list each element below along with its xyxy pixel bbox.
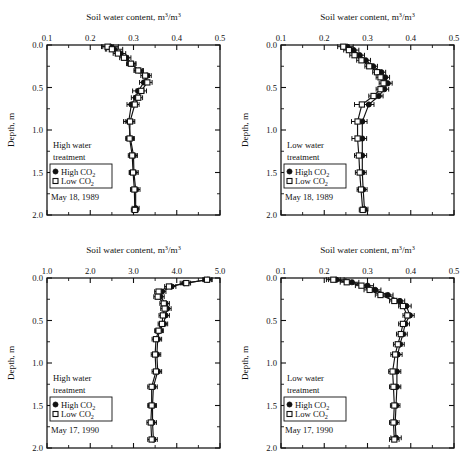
x-tick-label: 3.0 [128, 266, 139, 276]
data-point-low-co2 [352, 53, 357, 58]
series-line [151, 280, 207, 440]
treatment-label-line1: High water [53, 373, 92, 383]
chart-panel-top-right: Soil water content, m3/m3Depth, m0.10.20… [234, 0, 468, 232]
data-point-low-co2 [355, 119, 360, 124]
data-point-low-co2 [204, 277, 209, 282]
treatment-label-line2: treatment [287, 152, 320, 162]
y-tick-label: 0.5 [32, 316, 43, 326]
legend-label-low-co2: Low CO2 [61, 176, 94, 188]
data-point-low-co2 [139, 88, 144, 93]
data-point-low-co2 [355, 136, 360, 141]
data-point-low-co2 [148, 420, 153, 425]
treatment-label-line2: treatment [287, 385, 320, 395]
data-point-low-co2 [153, 337, 158, 342]
y-tick-label: 1.5 [32, 168, 43, 178]
x-tick-label: 2.0 [85, 266, 96, 276]
data-point-low-co2 [391, 384, 396, 389]
legend-label-low-co2: Low CO2 [295, 409, 328, 421]
x-tick-label: 1.0 [42, 266, 53, 276]
date-label: May 17, 1990 [51, 425, 99, 435]
data-point-low-co2 [357, 170, 362, 175]
data-point-low-co2 [127, 136, 132, 141]
legend: Low watertreatmentHigh CO2Low CO2May 18,… [284, 140, 346, 202]
data-point-low-co2 [405, 313, 410, 318]
x-tick-label: 0.1 [42, 33, 53, 43]
data-point-low-co2 [359, 102, 364, 107]
x-tick-label: 0.5 [215, 33, 226, 43]
legend-label-low-co2: Low CO2 [61, 409, 94, 421]
y-tick-label: 1.5 [266, 401, 277, 411]
x-axis-title: Soil water content, m3/m3 [320, 11, 414, 22]
y-axis-title: Depth, m [6, 346, 16, 380]
data-point-low-co2 [381, 81, 386, 86]
y-tick-label: 1.0 [32, 125, 43, 135]
data-point-low-co2 [378, 75, 383, 80]
y-axis-title: Depth, m [240, 113, 250, 147]
data-point-low-co2 [400, 303, 405, 308]
x-tick-label: 0.3 [362, 266, 373, 276]
x-tick-label: 4.0 [171, 266, 182, 276]
data-point-low-co2 [341, 44, 346, 49]
y-tick-label: 1.0 [266, 358, 277, 368]
data-point-low-co2 [359, 58, 364, 63]
legend-marker-low-co2 [53, 179, 58, 184]
series-high-co2 [149, 277, 213, 442]
data-point-low-co2 [360, 207, 365, 212]
y-tick-label: 0.5 [32, 83, 43, 93]
treatment-label-line2: treatment [53, 385, 86, 395]
data-point-low-co2 [374, 70, 379, 75]
y-tick-label: 0.5 [266, 316, 277, 326]
x-axis-title: Soil water content, m3/m3 [320, 244, 414, 255]
y-axis-title: Depth, m [6, 113, 16, 147]
data-point-low-co2 [132, 187, 137, 192]
data-point-low-co2 [149, 437, 154, 442]
legend: High watertreatmentHigh CO2Low CO2May 18… [50, 140, 112, 202]
data-point-low-co2 [153, 352, 158, 357]
legend-marker-high-co2 [287, 402, 292, 407]
data-point-low-co2 [136, 95, 141, 100]
x-tick-label: 0.4 [405, 266, 416, 276]
data-point-low-co2 [331, 277, 336, 282]
data-point-low-co2 [359, 283, 364, 288]
y-tick-label: 1.0 [32, 358, 43, 368]
data-point-low-co2 [166, 284, 171, 289]
y-tick-label: 0.5 [266, 83, 277, 93]
data-point-low-co2 [115, 51, 120, 56]
date-label: May 18, 1989 [285, 192, 333, 202]
y-tick-label: 1.0 [266, 125, 277, 135]
legend-marker-high-co2 [287, 169, 292, 174]
data-point-low-co2 [121, 55, 126, 60]
x-tick-label: 0.5 [449, 266, 460, 276]
y-tick-label: 2.0 [32, 210, 43, 220]
y-tick-label: 0.0 [32, 40, 43, 50]
data-point-low-co2 [356, 153, 361, 158]
legend: High watertreatmentHigh CO2Low CO2May 17… [50, 373, 112, 435]
data-point-low-co2 [398, 332, 403, 337]
legend-label-low-co2: Low CO2 [295, 176, 328, 188]
data-point-low-co2 [392, 298, 397, 303]
x-tick-label: 0.1 [276, 266, 287, 276]
x-tick-label: 0.5 [449, 33, 460, 43]
x-tick-label: 0.4 [171, 33, 182, 43]
y-tick-label: 0.0 [266, 273, 277, 283]
treatment-label-line2: treatment [53, 152, 86, 162]
data-point-low-co2 [109, 47, 114, 52]
x-tick-label: 0.2 [319, 266, 330, 276]
data-point-low-co2 [371, 93, 376, 98]
legend-marker-low-co2 [287, 412, 292, 417]
x-tick-label: 0.4 [405, 33, 416, 43]
data-point-low-co2 [392, 437, 397, 442]
data-point-low-co2 [159, 321, 164, 326]
plot-frame [281, 278, 454, 448]
data-point-low-co2 [344, 280, 349, 285]
data-point-low-co2 [132, 207, 137, 212]
plot-frame [47, 278, 220, 448]
data-point-low-co2 [378, 292, 383, 297]
data-point-low-co2 [156, 328, 161, 333]
date-label: May 17, 1990 [285, 425, 333, 435]
data-point-low-co2 [400, 321, 405, 326]
legend-marker-high-co2 [53, 169, 58, 174]
data-point-low-co2 [149, 384, 154, 389]
data-point-low-co2 [136, 68, 141, 73]
data-point-low-co2 [184, 281, 189, 286]
